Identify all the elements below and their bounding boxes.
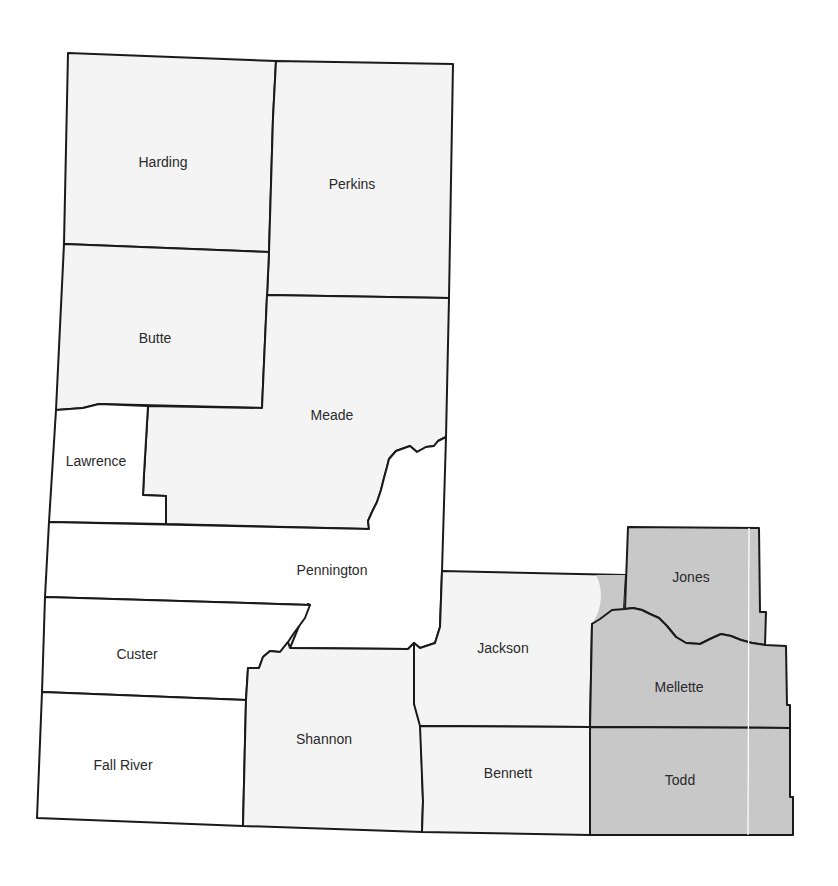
label-todd: Todd: [665, 772, 695, 788]
label-fall-river: Fall River: [93, 757, 152, 773]
label-shannon: Shannon: [296, 731, 352, 747]
county-butte[interactable]: [56, 244, 269, 410]
label-perkins: Perkins: [329, 176, 376, 192]
county-harding[interactable]: [64, 53, 276, 252]
label-lawrence: Lawrence: [66, 453, 127, 469]
label-jackson: Jackson: [477, 640, 528, 656]
label-pennington: Pennington: [297, 562, 368, 578]
label-mellette: Mellette: [654, 679, 703, 695]
label-butte: Butte: [139, 330, 172, 346]
label-jones: Jones: [672, 569, 709, 585]
label-meade: Meade: [311, 407, 354, 423]
county-map: Harding Perkins Butte Meade Lawrence Pen…: [0, 0, 838, 886]
label-bennett: Bennett: [484, 765, 532, 781]
label-custer: Custer: [116, 646, 158, 662]
label-harding: Harding: [138, 154, 187, 170]
